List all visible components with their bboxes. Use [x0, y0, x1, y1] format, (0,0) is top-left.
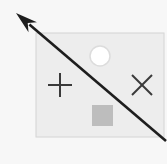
circle-shape[interactable]: [90, 46, 110, 66]
diagram-svg: [0, 0, 167, 164]
diagram-canvas: [0, 0, 167, 164]
gray-square-shape[interactable]: [92, 105, 113, 126]
